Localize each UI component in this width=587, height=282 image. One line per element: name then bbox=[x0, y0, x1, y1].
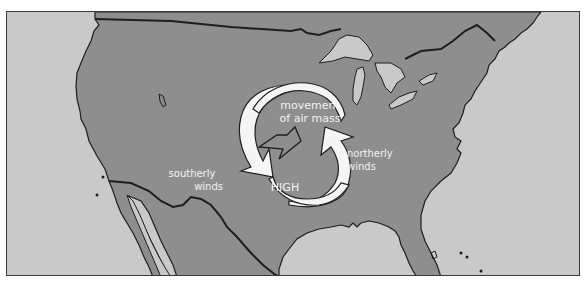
map-frame: movement of air mass southerly winds nor… bbox=[6, 11, 580, 276]
northerly-label-line1: northerly bbox=[347, 147, 407, 160]
high-pressure-label: HIGH bbox=[265, 181, 305, 194]
island bbox=[480, 270, 483, 273]
island bbox=[102, 176, 105, 179]
island bbox=[96, 194, 99, 197]
northerly-winds-label: northerly winds bbox=[347, 147, 407, 173]
island bbox=[460, 252, 463, 255]
southerly-label-line1: southerly bbox=[157, 167, 227, 180]
movement-label-line1: movement bbox=[255, 99, 365, 112]
northerly-label-line2: winds bbox=[347, 160, 407, 173]
island bbox=[466, 256, 469, 259]
southerly-label-line2: winds bbox=[157, 180, 227, 193]
movement-label-line2: of air mass bbox=[255, 112, 365, 125]
north-america-map bbox=[7, 12, 580, 276]
southerly-winds-label: southerly winds bbox=[157, 167, 227, 193]
movement-label: movement of air mass bbox=[255, 99, 365, 125]
